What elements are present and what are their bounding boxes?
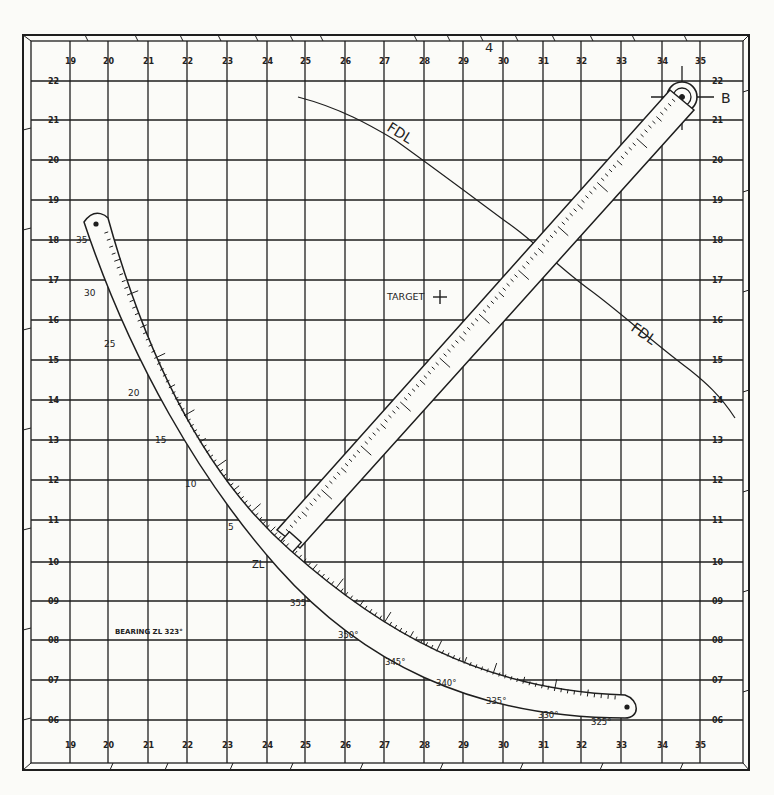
x-axis-labels-bottom: 1920212223242526272829303132333435 xyxy=(65,741,707,750)
x-label-bottom: 32 xyxy=(576,741,587,750)
x-label-top: 26 xyxy=(340,57,352,66)
svg-text:35: 35 xyxy=(76,235,87,245)
y-label-left: 15 xyxy=(48,356,60,365)
x-label-top: 29 xyxy=(458,57,470,66)
y-label-right: 15 xyxy=(712,356,724,365)
svg-text:325°: 325° xyxy=(591,717,611,727)
y-label-left: 14 xyxy=(48,396,60,405)
y-label-right: 10 xyxy=(712,558,724,567)
y-label-right: 17 xyxy=(712,276,723,285)
y-label-left: 09 xyxy=(48,597,60,606)
y-label-left: 18 xyxy=(48,236,60,245)
y-label-left: 10 xyxy=(48,558,60,567)
x-label-top: 32 xyxy=(576,57,587,66)
x-label-bottom: 29 xyxy=(458,741,470,750)
x-label-bottom: 28 xyxy=(419,741,431,750)
svg-text:330°: 330° xyxy=(538,710,558,720)
y-label-left: 20 xyxy=(48,156,60,165)
x-label-top: 31 xyxy=(538,57,550,66)
x-label-top: 25 xyxy=(300,57,312,66)
fdl-label-upper: FDL xyxy=(384,119,415,147)
svg-text:345°: 345° xyxy=(385,657,405,667)
svg-text:30: 30 xyxy=(84,288,96,298)
fdl-line xyxy=(298,97,735,418)
x-label-top: 28 xyxy=(419,57,431,66)
target-label: TARGET xyxy=(386,291,425,302)
svg-text:335°: 335° xyxy=(486,696,506,706)
y-label-right: 18 xyxy=(712,236,724,245)
svg-text:340°: 340° xyxy=(436,678,456,688)
x-label-bottom: 19 xyxy=(65,741,77,750)
y-label-right: 16 xyxy=(712,316,724,325)
x-label-bottom: 30 xyxy=(498,741,510,750)
zero-line-label: ZL xyxy=(252,559,265,570)
y-label-left: 13 xyxy=(48,436,59,445)
x-label-top: 30 xyxy=(498,57,510,66)
y-label-left: 21 xyxy=(48,116,60,125)
y-label-left: 11 xyxy=(48,516,60,525)
svg-text:15: 15 xyxy=(155,435,166,445)
y-axis-labels-left: 2221201918171615141312111009080706 xyxy=(48,77,60,725)
x-label-top: 19 xyxy=(65,57,77,66)
svg-text:25: 25 xyxy=(104,339,115,349)
y-label-right: 21 xyxy=(712,116,724,125)
x-label-top: 22 xyxy=(182,57,193,66)
x-label-bottom: 25 xyxy=(300,741,312,750)
y-label-right: 07 xyxy=(712,676,723,685)
x-label-bottom: 33 xyxy=(616,741,627,750)
x-label-bottom: 31 xyxy=(538,741,550,750)
x-label-top: 24 xyxy=(262,57,274,66)
y-label-right: 19 xyxy=(712,196,724,205)
y-label-right: 12 xyxy=(712,476,723,485)
x-label-top: 20 xyxy=(103,57,115,66)
battery-label: B xyxy=(721,90,731,106)
y-label-left: 06 xyxy=(48,716,60,725)
x-label-top: 23 xyxy=(222,57,233,66)
x-label-bottom: 27 xyxy=(379,741,390,750)
y-label-right: 08 xyxy=(712,636,724,645)
x-label-top: 33 xyxy=(616,57,627,66)
bearing-note: BEARING ZL 323° xyxy=(115,628,183,636)
plus-icon xyxy=(433,290,447,304)
y-label-right: 22 xyxy=(712,77,723,86)
x-label-bottom: 35 xyxy=(695,741,707,750)
y-label-left: 12 xyxy=(48,476,59,485)
y-label-right: 13 xyxy=(712,436,723,445)
x-label-bottom: 23 xyxy=(222,741,233,750)
x-label-bottom: 21 xyxy=(143,741,155,750)
x-axis-labels-top: 1920212223242526272829303132333435 xyxy=(65,57,707,66)
svg-text:355°: 355° xyxy=(290,598,310,608)
y-label-left: 19 xyxy=(48,196,60,205)
svg-text:20: 20 xyxy=(128,388,140,398)
plotting-board-diagram: 1920212223242526272829303132333435 19202… xyxy=(0,0,774,795)
y-label-left: 17 xyxy=(48,276,59,285)
x-label-top: 35 xyxy=(695,57,707,66)
x-label-top: 27 xyxy=(379,57,390,66)
x-label-bottom: 22 xyxy=(182,741,193,750)
y-label-right: 06 xyxy=(712,716,724,725)
x-label-bottom: 34 xyxy=(657,741,669,750)
x-label-bottom: 24 xyxy=(262,741,274,750)
x-label-bottom: 26 xyxy=(340,741,352,750)
svg-text:10: 10 xyxy=(185,479,197,489)
y-label-right: 20 xyxy=(712,156,724,165)
sheet-number: 4 xyxy=(485,40,493,55)
x-label-top: 34 xyxy=(657,57,669,66)
y-label-right: 09 xyxy=(712,597,724,606)
y-label-left: 08 xyxy=(48,636,60,645)
svg-text:350°: 350° xyxy=(338,630,358,640)
x-label-bottom: 20 xyxy=(103,741,115,750)
y-label-left: 16 xyxy=(48,316,60,325)
y-label-left: 07 xyxy=(48,676,59,685)
svg-text:5: 5 xyxy=(228,522,234,532)
y-label-left: 22 xyxy=(48,77,59,86)
x-label-top: 21 xyxy=(143,57,155,66)
y-label-right: 11 xyxy=(712,516,724,525)
